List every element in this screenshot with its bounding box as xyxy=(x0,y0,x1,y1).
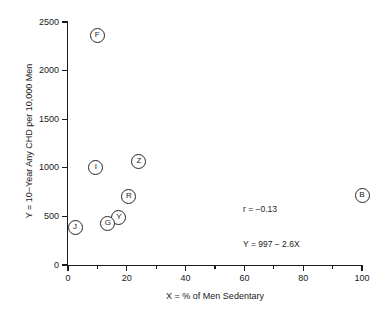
data-point-z: Z xyxy=(131,154,146,169)
x-axis-tick-label: 60 xyxy=(224,274,264,283)
y-axis-title: Y = 10−Year Any CHD per 10,000 Men xyxy=(24,48,34,234)
x-axis-tick-label: 20 xyxy=(107,274,147,283)
y-axis-tick xyxy=(62,167,67,168)
x-axis-tick xyxy=(361,266,362,271)
scatter-plot-figure: 05001000150020002500 020406080100 Y = 10… xyxy=(0,0,386,322)
y-axis-tick xyxy=(62,264,67,265)
x-axis-tick-label: 40 xyxy=(166,274,206,283)
y-axis-tick xyxy=(62,21,67,22)
plot-area: FIZRYGJB xyxy=(68,22,362,265)
x-axis-tick-label: 80 xyxy=(283,274,323,283)
x-axis-tick xyxy=(214,266,215,269)
data-point-g: G xyxy=(100,216,115,231)
x-axis-tick xyxy=(303,266,304,271)
correlation-text: r = −0.13 xyxy=(243,204,300,216)
x-axis-tick xyxy=(185,266,186,271)
y-axis-tick-label: 2500 xyxy=(25,18,59,27)
x-axis-tick-label: 0 xyxy=(48,274,88,283)
y-axis-tick xyxy=(62,70,67,71)
x-axis-tick xyxy=(156,266,157,269)
y-axis-tick xyxy=(62,119,67,120)
x-axis-title: X = % of Men Sedentary xyxy=(68,291,362,301)
data-point-f: F xyxy=(90,28,105,43)
x-axis-tick xyxy=(97,266,98,269)
x-axis-tick-label: 100 xyxy=(342,274,382,283)
data-point-j: J xyxy=(68,220,83,235)
x-axis-tick xyxy=(126,266,127,271)
y-axis-tick xyxy=(62,216,67,217)
regression-equation-text: Y = 997 − 2.6X xyxy=(243,239,300,251)
x-axis-tick xyxy=(67,266,68,271)
data-point-b: B xyxy=(355,188,370,203)
y-axis-tick-label: 0 xyxy=(25,261,59,270)
data-point-r: R xyxy=(121,189,136,204)
data-point-i: I xyxy=(88,160,103,175)
x-axis-tick xyxy=(332,266,333,269)
statistics-annotation: r = −0.13 Y = 997 − 2.6X xyxy=(243,181,300,273)
